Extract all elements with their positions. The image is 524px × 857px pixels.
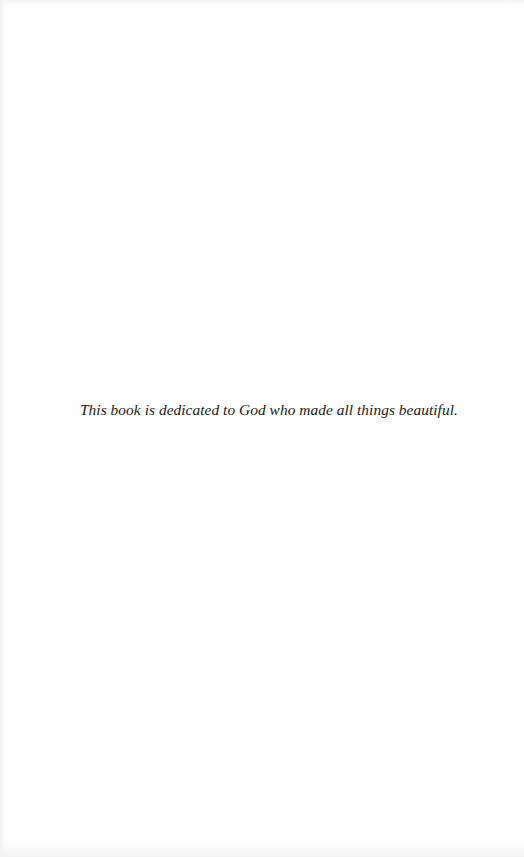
dedication-text: This book is dedicated to God who made a…	[80, 401, 458, 419]
page-edge-shadow-left	[0, 0, 6, 857]
page-edge-shadow-bottom	[0, 843, 524, 857]
book-page: This book is dedicated to God who made a…	[0, 0, 524, 857]
page-edge-shadow-top	[0, 0, 524, 6]
